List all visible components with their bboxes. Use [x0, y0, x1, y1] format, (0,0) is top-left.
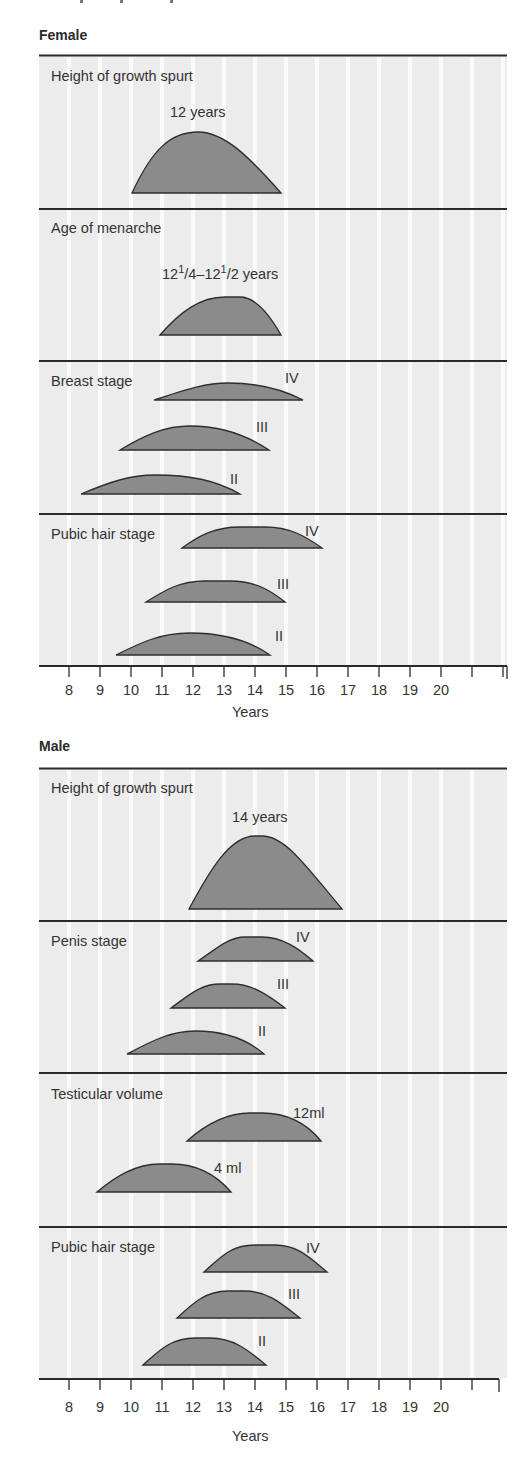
female-chart: Height of growth spurt 12 years Age of m…: [39, 55, 507, 720]
label-penis-ii: II: [258, 1023, 266, 1039]
cutoff-caption: [80, 0, 173, 3]
panel-title-male-pubic-hair: Pubic hair stage: [51, 1239, 155, 1255]
x-tick-label: 8: [65, 682, 73, 698]
x-tick-label: 12: [185, 682, 201, 698]
label-male-pubic-iii: III: [288, 1286, 300, 1302]
panel-title-female-growth-spurt: Height of growth spurt: [51, 68, 193, 84]
female-x-ticks: 891011121314151617181920: [65, 666, 507, 698]
panel-title-breast-stage: Breast stage: [51, 373, 132, 389]
label-penis-iii: III: [277, 976, 289, 992]
x-tick-label: 8: [65, 1399, 73, 1415]
section-title-male: Male: [39, 738, 70, 754]
label-female-pubic-iii: III: [277, 576, 289, 592]
x-tick-label: 9: [96, 1399, 104, 1415]
section-title-female: Female: [39, 27, 87, 43]
panel-title-male-growth-spurt: Height of growth spurt: [51, 780, 193, 796]
x-tick-label: 19: [402, 1399, 418, 1415]
x-tick-label: 11: [154, 1399, 169, 1415]
x-tick-label: 13: [216, 1399, 232, 1415]
label-breast-ii: II: [230, 471, 238, 487]
label-female-pubic-iv: IV: [305, 523, 319, 539]
label-testicular-4ml: 4 ml: [214, 1160, 241, 1176]
x-tick-label: 18: [371, 682, 387, 698]
label-14-years: 14 years: [232, 809, 288, 825]
label-penis-iv: IV: [296, 929, 310, 945]
x-tick-label: 14: [247, 1399, 263, 1415]
label-male-pubic-iv: IV: [306, 1240, 320, 1256]
x-tick-label: 12: [185, 1399, 201, 1415]
x-axis-title-male: Years: [232, 1428, 269, 1444]
panel-title-female-pubic-hair: Pubic hair stage: [51, 526, 155, 542]
x-tick-label: 10: [123, 1399, 139, 1415]
label-female-pubic-ii: II: [275, 628, 283, 644]
x-tick-label: 17: [340, 1399, 356, 1415]
panel-title-penis-stage: Penis stage: [51, 933, 127, 949]
male-chart: Height of growth spurt 14 years Penis st…: [39, 768, 507, 1444]
x-tick-label: 18: [371, 1399, 387, 1415]
x-tick-label: 14: [247, 682, 263, 698]
panel-title-testicular-volume: Testicular volume: [51, 1086, 163, 1102]
label-breast-iv: IV: [285, 370, 299, 386]
x-tick-label: 20: [433, 682, 449, 698]
x-tick-label: 16: [309, 682, 325, 698]
x-axis-title-female: Years: [232, 704, 269, 720]
x-tick-label: 20: [433, 1399, 449, 1415]
label-male-pubic-ii: II: [258, 1333, 266, 1349]
x-tick-label: 15: [278, 682, 294, 698]
male-x-ticks: 891011121314151617181920: [65, 1379, 499, 1415]
x-tick-label: 11: [154, 682, 169, 698]
x-tick-label: 10: [123, 682, 139, 698]
x-tick-label: 13: [216, 682, 232, 698]
label-testicular-12ml: 12ml: [293, 1105, 324, 1121]
x-tick-label: 9: [96, 682, 104, 698]
label-breast-iii: III: [256, 419, 268, 435]
puberty-timing-chart: Female Height of growth spurt 12 years A…: [0, 0, 528, 1457]
panel-title-menarche: Age of menarche: [51, 220, 161, 236]
x-tick-label: 19: [402, 682, 418, 698]
label-12-years: 12 years: [170, 104, 226, 120]
x-tick-label: 15: [278, 1399, 294, 1415]
x-tick-label: 17: [340, 682, 356, 698]
x-tick-label: 16: [309, 1399, 325, 1415]
